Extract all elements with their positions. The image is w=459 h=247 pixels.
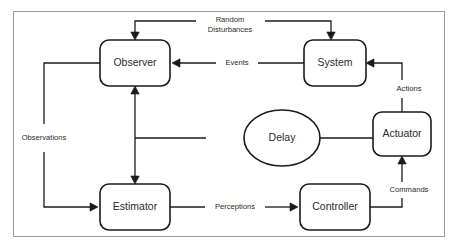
node-actuator[interactable]: Actuator	[373, 112, 431, 156]
edge-label-text-perceptions: Perceptions	[215, 202, 255, 211]
node-label-delay: Delay	[269, 131, 297, 143]
edge-label-text-commands: Commands	[390, 185, 429, 194]
node-system[interactable]: System	[304, 40, 366, 86]
edge-commands	[370, 156, 406, 207]
edge-label-text-random-disturbances: Random	[216, 15, 245, 24]
node-label-estimator: Estimator	[113, 200, 158, 212]
edge-vertical-bus	[131, 86, 139, 184]
node-label-observer: Observer	[113, 56, 157, 68]
edge-label-actions: Actions	[397, 84, 422, 93]
node-estimator[interactable]: Estimator	[100, 184, 170, 230]
edge-label-text-actions: Actions	[397, 84, 422, 93]
edge-label-perceptions: Perceptions	[215, 202, 255, 211]
edge-label-random-disturbances: RandomDisturbances	[208, 15, 253, 34]
node-controller[interactable]: Controller	[300, 184, 370, 230]
control-loop-diagram: ObserverSystemDelayActuatorEstimatorCont…	[0, 0, 459, 247]
edge-label-commands: Commands	[390, 185, 429, 194]
node-label-controller: Controller	[312, 200, 358, 212]
node-label-system: System	[317, 56, 352, 68]
node-observer[interactable]: Observer	[100, 40, 170, 86]
edge-label-events: Events	[225, 58, 248, 67]
edge-label-text-observations: Observations	[22, 133, 67, 142]
edge-label-text-events: Events	[225, 58, 248, 67]
nodes-layer: ObserverSystemDelayActuatorEstimatorCont…	[100, 40, 431, 230]
diagram-page: ObserverSystemDelayActuatorEstimatorCont…	[0, 0, 459, 247]
node-delay[interactable]: Delay	[244, 110, 320, 166]
edge-label-observations: Observations	[22, 133, 67, 142]
node-label-actuator: Actuator	[382, 127, 422, 139]
edge-labels-layer: RandomDisturbancesEventsActionsObservati…	[22, 15, 429, 211]
edge-label-text2-random-disturbances: Disturbances	[208, 25, 253, 34]
